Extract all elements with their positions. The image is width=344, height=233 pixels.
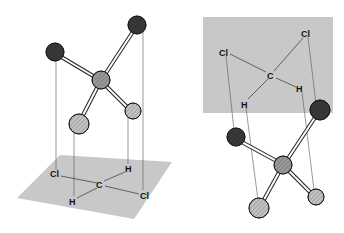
label-h: H [69,197,76,207]
label-cl: Cl [140,191,149,201]
label-c: C [267,71,274,81]
atoms [227,100,330,218]
molecule-projection-diagram: Cl H C H Cl [0,0,344,233]
left-panel: Cl H C H Cl [17,16,172,219]
label-c: C [96,180,103,190]
right-panel: Cl Cl C H H [203,17,333,218]
label-cl: Cl [219,48,228,58]
label-cl: Cl [301,29,310,39]
projection-plane [203,17,333,113]
label-cl: Cl [50,169,59,179]
label-h: H [296,84,303,94]
label-h: H [241,100,248,110]
label-h: H [125,164,132,174]
projection-plane [17,155,172,219]
